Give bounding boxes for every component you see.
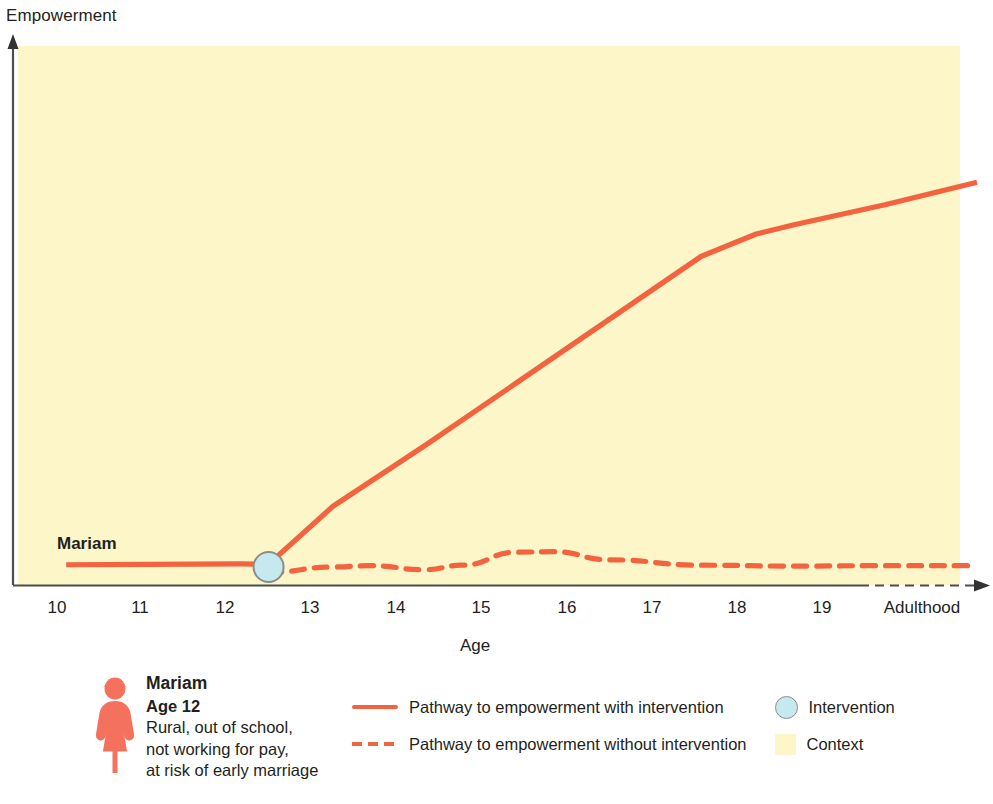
x-tick-16: 16 — [558, 598, 577, 618]
persona-name: Mariam — [146, 672, 318, 695]
square-swatch-icon — [775, 734, 796, 755]
legend-item-context[interactable]: Context — [775, 731, 895, 757]
female-person-icon — [94, 676, 136, 778]
x-tick-adulthood: Adulthood — [884, 598, 961, 618]
persona-age: Age 12 — [146, 695, 318, 717]
x-axis-title: Age — [0, 636, 950, 656]
legend-item-without-intervention[interactable]: Pathway to empowerment without intervent… — [352, 731, 747, 757]
x-tick-14: 14 — [387, 598, 406, 618]
x-tick-15: 15 — [472, 598, 491, 618]
chart-canvas — [0, 0, 993, 660]
intervention-marker-circle[interactable] — [254, 552, 284, 582]
x-tick-17: 17 — [643, 598, 662, 618]
x-tick-18: 18 — [728, 598, 747, 618]
y-axis-arrowhead — [8, 34, 19, 49]
persona-description-line-2: not working for pay, — [146, 739, 318, 761]
x-axis-arrowhead — [974, 580, 990, 592]
x-tick-10: 10 — [48, 598, 67, 618]
empowerment-pathway-figure: Empowerment Mariam 10 11 12 13 14 15 16 … — [0, 0, 993, 804]
x-tick-13: 13 — [301, 598, 320, 618]
legend-item-intervention[interactable]: Intervention — [775, 694, 895, 720]
legend-column-pathways: Pathway to empowerment with intervention… — [352, 694, 747, 757]
solid-line-swatch-icon — [352, 705, 398, 709]
x-axis-tick-labels: 10 11 12 13 14 15 16 17 18 19 Adulthood — [0, 598, 993, 624]
circle-swatch-icon — [775, 696, 798, 719]
persona-details: Mariam Age 12 Rural, out of school, not … — [146, 672, 318, 782]
legend-label-without-intervention: Pathway to empowerment without intervent… — [409, 735, 747, 754]
legend-label-intervention: Intervention — [809, 698, 895, 717]
legend-label-context: Context — [807, 735, 864, 754]
legend-column-markers: Intervention Context — [775, 694, 895, 757]
x-tick-19: 19 — [813, 598, 832, 618]
x-tick-12: 12 — [216, 598, 235, 618]
persona-block: Mariam Age 12 Rural, out of school, not … — [94, 672, 318, 782]
plot-background — [18, 46, 960, 585]
legend-item-with-intervention[interactable]: Pathway to empowerment with intervention — [352, 694, 747, 720]
x-tick-11: 11 — [131, 598, 149, 618]
dashed-line-swatch-icon — [352, 742, 398, 746]
legend-label-with-intervention: Pathway to empowerment with intervention — [409, 698, 724, 717]
legend: Pathway to empowerment with intervention… — [352, 694, 895, 757]
persona-description-line-3: at risk of early marriage — [146, 760, 318, 782]
persona-description-line-1: Rural, out of school, — [146, 717, 318, 739]
chart-series-label: Mariam — [57, 534, 117, 554]
